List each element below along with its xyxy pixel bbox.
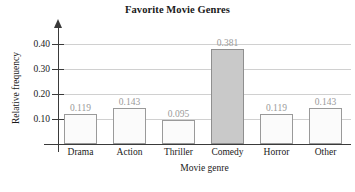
category-label-other: Other xyxy=(302,148,349,158)
category-label-horror: Horror xyxy=(253,148,300,158)
bar-drama xyxy=(64,114,97,144)
y-tick-label-010: 0.10 xyxy=(16,115,50,125)
bar-action xyxy=(113,108,146,144)
category-label-drama: Drama xyxy=(57,148,104,158)
y-tick-mark-020 xyxy=(52,94,64,95)
bar-value-horror: 0.119 xyxy=(255,104,298,114)
bar-thriller xyxy=(162,120,195,144)
x-axis-line xyxy=(44,144,351,145)
category-label-thriller: Thriller xyxy=(155,148,202,158)
bar-value-other: 0.143 xyxy=(304,98,347,108)
y-tick-label-020: 0.20 xyxy=(16,90,50,100)
gridline-030 xyxy=(58,69,351,70)
chart-figure: Favorite Movie Genres 0.40 0.30 0.20 0.1… xyxy=(0,0,355,192)
y-axis-title: Relative frequency xyxy=(11,33,21,143)
y-tick-label-030: 0.30 xyxy=(16,65,50,75)
y-tick-mark-010 xyxy=(52,119,64,120)
gridline-040 xyxy=(58,44,351,45)
x-axis-title: Movie genre xyxy=(58,163,351,173)
bar-horror xyxy=(260,114,293,144)
y-tick-label-040: 0.40 xyxy=(16,40,50,50)
y-axis-arrow-icon xyxy=(54,19,62,28)
y-tick-mark-040 xyxy=(52,44,64,45)
plot-area: 0.40 0.30 0.20 0.10 Relative frequency 0… xyxy=(0,0,355,192)
gridline-010 xyxy=(58,119,351,120)
category-label-action: Action xyxy=(106,148,153,158)
bar-value-thriller: 0.095 xyxy=(157,110,200,120)
bar-value-drama: 0.119 xyxy=(59,104,102,114)
bar-value-action: 0.143 xyxy=(108,98,151,108)
y-tick-mark-030 xyxy=(52,69,64,70)
category-label-comedy: Comedy xyxy=(204,148,251,158)
gridline-020 xyxy=(58,94,351,95)
bar-value-comedy: 0.381 xyxy=(206,39,249,49)
bar-other xyxy=(309,108,342,144)
bar-comedy xyxy=(211,49,244,144)
